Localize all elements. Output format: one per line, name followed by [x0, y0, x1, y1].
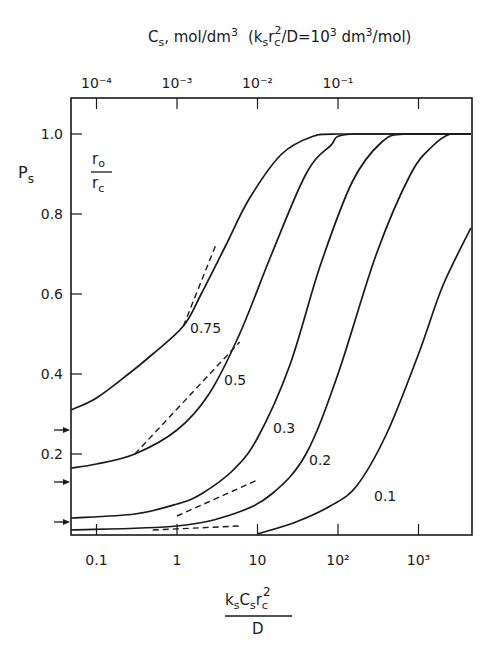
curve-0.5 [71, 134, 471, 468]
top-axis-title: Cs, mol/dm3(ksrc2/D=103 dm3/mol) [148, 24, 411, 49]
curve-0.3 [71, 134, 471, 518]
y-tick-label: 0.2 [41, 446, 63, 462]
asymptote-0.5 [135, 342, 240, 454]
arrow-head-icon [63, 479, 70, 485]
arrow-head-icon [63, 519, 70, 525]
y-tick-label: 0.8 [41, 206, 63, 222]
top-tick-label: 10⁻⁴ [81, 75, 112, 91]
asymptote-0.3 [177, 480, 258, 516]
x-tick-label: 10² [326, 552, 349, 568]
plot-frame [71, 98, 472, 535]
left-axis-arrows [54, 427, 70, 525]
x-tick-label: 0.1 [85, 552, 107, 568]
top-tick-label: 10⁻¹ [323, 75, 354, 91]
asymptote-0.75 [183, 246, 215, 326]
curve-0.2 [71, 134, 471, 530]
top-tick-label: 10⁻³ [162, 75, 193, 91]
curve-label: 0.5 [224, 372, 246, 388]
chart: Cs, mol/dm3(ksrc2/D=103 dm3/mol) 0.11101… [0, 0, 501, 656]
arrow-head-icon [63, 427, 70, 433]
data-curves [71, 134, 471, 534]
x-axis-label: ksCsrc2 D [225, 585, 292, 638]
x-tick-label: 10 [249, 552, 267, 568]
axis-ticks [71, 98, 419, 535]
curve-label: 0.3 [273, 420, 295, 436]
curve-label: 0.75 [190, 320, 221, 336]
top-tick-label: 10⁻² [242, 75, 273, 91]
curve-labels: 0.750.50.30.20.1 [190, 320, 396, 504]
svg-text:ksCsrc2: ksCsrc2 [225, 585, 271, 612]
y-tick-label: 0.6 [41, 286, 63, 302]
x-tick-label: 1 [173, 552, 182, 568]
svg-text:rc: rc [92, 174, 104, 195]
axis-tick-labels: 0.111010²10³10⁻⁴10⁻³10⁻²10⁻¹0.20.40.60.8… [41, 75, 430, 568]
y-tick-label: 1.0 [41, 126, 63, 142]
curve-label: 0.2 [309, 452, 331, 468]
y-tick-label: 0.4 [41, 366, 63, 382]
svg-text:D: D [252, 620, 264, 638]
y-axis-label: Ps [18, 163, 34, 186]
asymptote-dashes [135, 246, 258, 530]
curve-0.1 [258, 228, 471, 534]
curve-label: 0.1 [374, 488, 396, 504]
svg-text:ro: ro [92, 150, 105, 170]
x-tick-label: 10³ [407, 552, 430, 568]
legend-title: ro rc [91, 150, 112, 195]
